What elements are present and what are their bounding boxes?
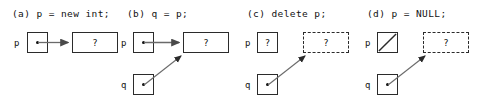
panel-b: (b) q = p; p ? q <box>115 0 235 102</box>
panel-d-heap-box: ? <box>423 32 469 53</box>
panel-d-q-label: q <box>365 80 370 90</box>
panel-a-heap-value: ? <box>73 38 117 47</box>
panel-c-p-box: ? <box>257 32 278 53</box>
panel-d-p-label: p <box>365 38 370 48</box>
panel-c-q-box <box>257 74 278 95</box>
panel-a-p-label: p <box>14 38 19 48</box>
panel-d-p-box <box>377 32 398 53</box>
pointer-dot-icon <box>266 83 269 86</box>
panel-d-q-box <box>377 74 398 95</box>
panel-c-p-value: ? <box>258 38 277 47</box>
pointer-dot-icon <box>142 41 145 44</box>
panel-d-caption: (d) p = NULL; <box>367 8 447 20</box>
panel-a: (a) p = new int; p ? <box>0 0 120 102</box>
panel-d: (d) p = NULL; p ? q <box>355 0 475 102</box>
panel-a-caption: (a) p = new int; <box>12 8 110 20</box>
panel-b-heap-value: ? <box>184 38 228 47</box>
panel-c-p-label: p <box>245 38 250 48</box>
panel-c: (c) delete p; p ? ? q <box>235 0 355 102</box>
panel-d-heap-value: ? <box>424 38 468 47</box>
pointer-dot-icon <box>142 83 145 86</box>
panel-c-heap-box: ? <box>303 32 349 53</box>
panel-b-caption: (b) q = p; <box>127 8 188 20</box>
pointer-dot-icon <box>36 41 39 44</box>
panel-c-heap-value: ? <box>304 38 348 47</box>
panel-a-p-box <box>27 32 48 53</box>
pointer-diagram-figure: (a) p = new int; p ? (b) q = p; p ? q <box>0 0 485 102</box>
panel-b-p-label: p <box>121 38 126 48</box>
panel-b-q-label: q <box>121 80 126 90</box>
null-slash-icon <box>378 33 397 52</box>
panel-c-q-label: q <box>245 80 250 90</box>
panel-c-caption: (c) delete p; <box>247 8 327 20</box>
panel-b-q-box <box>133 74 154 95</box>
panel-b-p-box <box>133 32 154 53</box>
pointer-dot-icon <box>386 83 389 86</box>
panel-a-heap-box: ? <box>72 32 118 53</box>
panel-b-heap-box: ? <box>183 32 229 53</box>
